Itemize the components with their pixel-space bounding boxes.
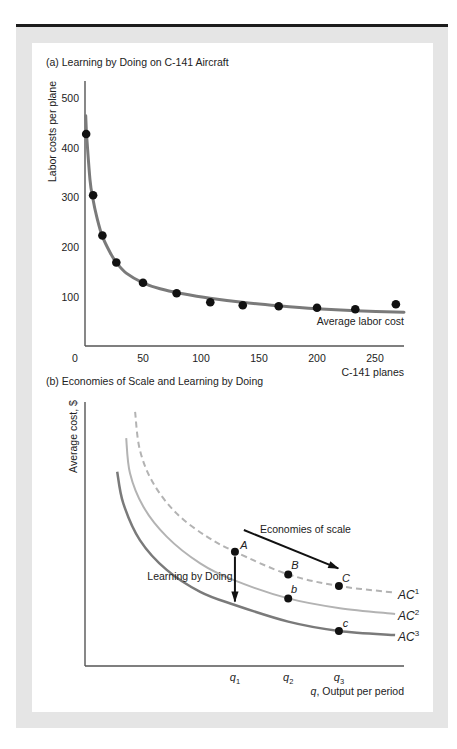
y-tick-label: 200 <box>49 241 79 254</box>
x-tick-label: 150 <box>239 352 279 365</box>
point-label-A: A <box>239 539 249 552</box>
x-tick-label: 50 <box>123 352 163 365</box>
economies-of-scale-label: Economies of scale <box>245 523 365 536</box>
panel-a-title: (a) Learning by Doing on C-141 Aircraft <box>46 56 229 69</box>
y-tick-label: 400 <box>49 142 79 155</box>
figure: (a) Learning by Doing on C-141 Aircraft … <box>0 0 457 749</box>
q-subscript: 1 <box>236 677 240 686</box>
q-tick-label: q3 <box>327 671 351 688</box>
panel-a-y-axis-label: Labor costs per plane <box>46 62 59 202</box>
ac2-label: AC2 <box>398 606 419 623</box>
learning-by-doing-label: Learning by Doing <box>130 570 250 583</box>
ac1-label: AC1 <box>398 585 419 602</box>
curve-label-superscript: 3 <box>415 629 419 638</box>
curve-label-text: AC <box>398 588 415 602</box>
point-label-b: b <box>289 583 299 596</box>
q-tick-label: q1 <box>223 671 247 688</box>
x-tick-label: 0 <box>55 352 95 365</box>
x-tick-label: 100 <box>181 352 221 365</box>
point-label-c: c <box>341 617 351 630</box>
curve-label-superscript: 2 <box>415 608 419 617</box>
chart-labels: (a) Learning by Doing on C-141 Aircraft … <box>0 0 457 749</box>
q-tick-label: q2 <box>276 671 300 688</box>
q-subscript: 2 <box>289 677 293 686</box>
point-label-B: B <box>290 559 300 572</box>
panel-b-y-axis-label: Average cost, $ <box>67 367 80 507</box>
curve-label-text: AC <box>398 630 415 644</box>
y-tick-label: 500 <box>49 92 79 105</box>
x-tick-label: 250 <box>355 352 395 365</box>
y-tick-label: 100 <box>49 291 79 304</box>
point-label-C: C <box>341 572 351 585</box>
q-subscript: 3 <box>340 677 344 686</box>
ac3-label: AC3 <box>398 627 419 644</box>
curve-label-text: AC <box>398 609 415 623</box>
average-labor-cost-label: Average labor cost <box>204 315 404 328</box>
curve-label-superscript: 1 <box>415 587 419 596</box>
x-tick-label: 200 <box>297 352 337 365</box>
y-tick-label: 300 <box>49 191 79 204</box>
